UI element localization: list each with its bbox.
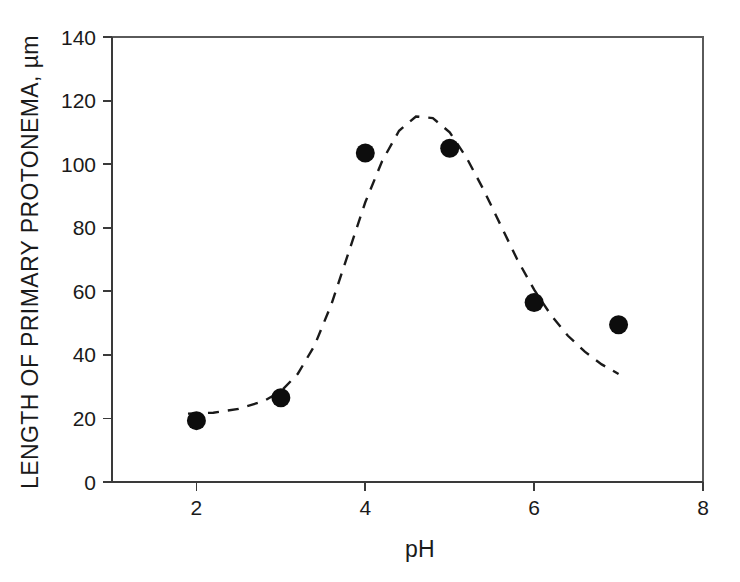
- x-tick-label-2: 2: [191, 496, 203, 519]
- y-tick-label-20: 20: [73, 407, 96, 430]
- x-tick-label-6: 6: [528, 496, 540, 519]
- data-point-ph6: [525, 293, 544, 312]
- x-tick-label-4: 4: [359, 496, 371, 519]
- y-tick-label-40: 40: [73, 343, 96, 366]
- x-tick-label-8: 8: [697, 496, 709, 519]
- x-axis-title: pH: [405, 536, 435, 562]
- y-axis-tick-labels: 0 20 40 60 80 100 120 140: [61, 26, 96, 494]
- chart-figure: 0 20 40 60 80 100 120 140 2 4 6 8 pH LEN…: [0, 0, 740, 582]
- data-point-ph3: [271, 388, 290, 407]
- y-tick-label-140: 140: [61, 26, 96, 49]
- y-tick-label-80: 80: [73, 216, 96, 239]
- y-axis-ticks: [103, 37, 112, 482]
- data-point-ph5: [440, 139, 459, 158]
- data-points: [187, 139, 628, 430]
- y-tick-label-60: 60: [73, 280, 96, 303]
- data-point-ph7: [609, 315, 628, 334]
- fitted-curve: [188, 116, 619, 413]
- y-tick-label-100: 100: [61, 153, 96, 176]
- scatter-plot: 0 20 40 60 80 100 120 140 2 4 6 8 pH LEN…: [0, 0, 740, 582]
- y-tick-label-120: 120: [61, 89, 96, 112]
- data-point-ph2: [187, 411, 206, 430]
- data-point-ph4: [356, 144, 375, 163]
- y-axis-title: LENGTH OF PRIMARY PROTONEMA, µm: [17, 35, 43, 489]
- x-axis-ticks: [196, 482, 703, 491]
- x-axis-tick-labels: 2 4 6 8: [191, 496, 709, 519]
- y-tick-label-0: 0: [84, 471, 96, 494]
